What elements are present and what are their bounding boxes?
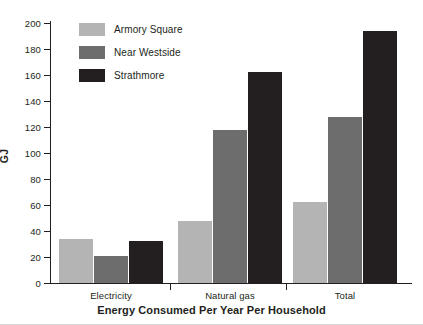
y-axis-tick-label: 180 <box>3 44 41 55</box>
legend-item: Strathmore <box>79 66 183 84</box>
y-axis-tick-label: 100 <box>3 148 41 159</box>
bar-chart: GJ 020406080100120140160180200 Electrici… <box>0 0 423 325</box>
x-axis-line <box>50 283 412 284</box>
bar <box>178 221 212 283</box>
legend-label: Armory Square <box>114 24 183 35</box>
legend-swatch <box>79 69 105 82</box>
y-axis-tick-label: 160 <box>3 70 41 81</box>
bar <box>363 31 397 283</box>
y-axis-tick-label: 140 <box>3 96 41 107</box>
x-axis-category-label: Electricity <box>51 290 171 301</box>
legend-swatch <box>79 46 105 59</box>
bar <box>129 241 163 283</box>
bar <box>213 130 247 283</box>
y-axis-tick-label: 60 <box>3 200 41 211</box>
bar-group <box>178 23 282 283</box>
y-axis-labels: 020406080100120140160180200 <box>0 0 41 325</box>
legend-label: Near Westside <box>114 47 181 58</box>
bar <box>94 256 128 283</box>
x-axis-category-label: Total <box>285 290 405 301</box>
bar <box>328 117 362 283</box>
bar <box>248 72 282 283</box>
legend-item: Near Westside <box>79 43 183 61</box>
legend: Armory SquareNear WestsideStrathmore <box>79 20 183 89</box>
y-axis-tick-label: 120 <box>3 122 41 133</box>
y-axis-tick-label: 40 <box>3 226 41 237</box>
y-axis-tick-label: 80 <box>3 174 41 185</box>
legend-swatch <box>79 23 105 36</box>
bar <box>293 202 327 283</box>
x-axis-category-label: Natural gas <box>170 290 290 301</box>
y-axis-tick-label: 200 <box>3 18 41 29</box>
legend-item: Armory Square <box>79 20 183 38</box>
y-axis-tick-label: 20 <box>3 252 41 263</box>
legend-label: Strathmore <box>114 70 164 81</box>
bar <box>59 239 93 283</box>
y-axis-tick-label: 0 <box>3 278 41 289</box>
bar-group <box>293 23 397 283</box>
chart-title: Energy Consumed Per Year Per Household <box>0 304 423 316</box>
